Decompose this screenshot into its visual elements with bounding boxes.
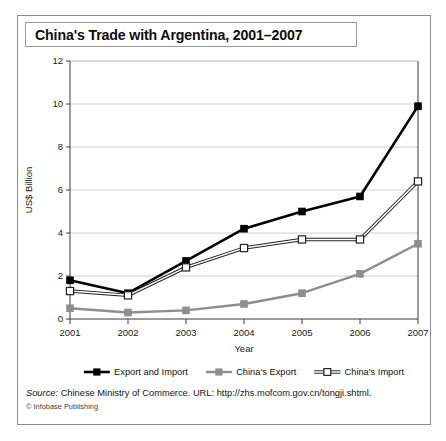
data-point: [356, 236, 363, 243]
x-tick-label: 2004: [233, 327, 254, 338]
data-point: [356, 193, 364, 201]
x-tick-label: 2003: [175, 327, 196, 338]
chart-plot-area: 0246810122001200220032004200520062007Yea…: [18, 49, 430, 387]
source-body: Chinese Ministry of Commerce. URL: http:…: [58, 388, 371, 398]
page-title: China's Trade with Argentina, 2001–2007: [35, 27, 302, 43]
legend-marker: [324, 369, 331, 376]
source-text: Source: Chinese Ministry of Commerce. UR…: [26, 388, 424, 398]
series-line-inner: [70, 181, 418, 295]
data-point: [414, 240, 422, 248]
y-tick-label: 10: [52, 98, 63, 109]
data-point: [240, 244, 247, 251]
data-point: [66, 304, 74, 312]
x-tick-label: 2006: [349, 327, 370, 338]
x-axis-title: Year: [234, 343, 253, 354]
x-tick-label: 2007: [407, 327, 428, 338]
data-point: [124, 292, 131, 299]
data-point: [124, 309, 132, 317]
series-line: [70, 106, 418, 293]
data-point: [182, 264, 189, 271]
legend-item: China's Import: [314, 367, 404, 377]
data-point: [298, 236, 305, 243]
y-tick-label: 6: [58, 184, 63, 195]
data-point: [356, 270, 364, 278]
y-tick-label: 2: [58, 270, 63, 281]
source-prefix: Source:: [26, 388, 58, 398]
series-2: [66, 178, 421, 299]
data-point: [182, 307, 190, 315]
legend-label: China's Export: [236, 367, 297, 377]
series-line-outer: [70, 181, 418, 295]
source-note: Source: Chinese Ministry of Commerce. UR…: [26, 388, 424, 411]
y-tick-label: 12: [52, 55, 63, 66]
figure-frame: China's Trade with Argentina, 2001–2007 …: [17, 15, 431, 425]
legend-label: Export and Import: [114, 367, 188, 377]
data-point: [240, 300, 248, 308]
data-point: [298, 208, 306, 216]
series-0: [66, 102, 422, 297]
data-point: [414, 178, 421, 185]
data-point: [298, 289, 306, 297]
legend-label: China's Import: [345, 367, 405, 377]
legend-item: Export and Import: [84, 367, 189, 377]
line-chart: 0246810122001200220032004200520062007Yea…: [18, 49, 430, 387]
legend-marker: [215, 368, 222, 375]
x-tick-label: 2005: [291, 327, 312, 338]
y-tick-label: 8: [58, 141, 63, 152]
x-tick-label: 2002: [117, 327, 138, 338]
x-tick-label: 2001: [59, 327, 80, 338]
chart-title-box: China's Trade with Argentina, 2001–2007: [25, 22, 357, 47]
legend-item: China's Export: [206, 367, 297, 377]
data-point: [66, 287, 73, 294]
data-point: [66, 277, 74, 285]
y-tick-label: 0: [58, 313, 63, 324]
legend-marker: [93, 368, 100, 375]
publisher-credit: © Infobase Publishing: [26, 402, 424, 411]
y-tick-label: 4: [58, 227, 63, 238]
data-point: [414, 102, 422, 110]
data-point: [240, 225, 248, 233]
y-axis-title: US$ Billion: [23, 167, 34, 213]
